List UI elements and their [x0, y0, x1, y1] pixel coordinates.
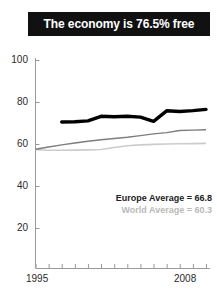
legend-item-world: World Average = 60.3	[104, 204, 212, 216]
chart-series-group	[36, 109, 207, 150]
chart-legend: Europe Average = 66.8 World Average = 60…	[104, 192, 212, 216]
page-title: The economy is 76.5% free	[44, 17, 195, 31]
y-axis-label-80: 80	[2, 96, 28, 107]
line-chart-svg	[0, 40, 217, 298]
chart-area: 100 80 60 40 20 1995 2008 Europe Average…	[0, 40, 217, 298]
legend-item-europe: Europe Average = 66.8	[104, 192, 212, 204]
chart-page: The economy is 76.5% free 100 80 60 40 2…	[0, 0, 217, 298]
y-axis-label-40: 40	[2, 180, 28, 191]
chart-title-banner: The economy is 76.5% free	[28, 12, 210, 36]
y-axis-label-60: 60	[2, 138, 28, 149]
y-axis-label-20: 20	[2, 222, 28, 233]
x-axis-label-end: 2008	[174, 273, 196, 284]
series-line-country	[62, 109, 206, 122]
y-axis-label-100: 100	[2, 54, 28, 65]
y-tick-marks	[36, 61, 40, 229]
x-axis-label-start: 1995	[26, 273, 48, 284]
x-tick-marks	[36, 264, 207, 268]
